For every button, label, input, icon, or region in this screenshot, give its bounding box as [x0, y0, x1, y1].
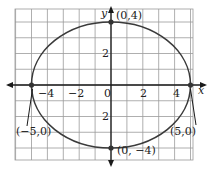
x-axis-label: x: [198, 85, 204, 96]
vertex-point: [108, 19, 113, 24]
point-label-bottom: (0, −4): [117, 145, 156, 156]
y-axis-arrow-down-icon: [108, 160, 114, 167]
y-axis-label: y: [101, 8, 107, 19]
y-axis-arrow-up-icon: [108, 6, 114, 13]
x-tick-label: −4: [38, 88, 54, 99]
x-tick-label: 4: [173, 88, 180, 99]
x-tick-label: 0: [104, 88, 111, 99]
point-label-right: (5,0): [170, 126, 196, 137]
x-axis-arrow-left-icon: [6, 82, 13, 88]
point-label-top: (0,4): [116, 10, 142, 21]
y-tick-label: 2: [102, 48, 109, 59]
y-tick-label: 2: [102, 111, 109, 122]
point-label-left: (−5,0): [16, 126, 51, 137]
vertex-point: [29, 82, 34, 87]
vertex-point: [108, 145, 113, 150]
x-tick-label: 2: [140, 88, 147, 99]
x-tick-label: −2: [68, 88, 84, 99]
vertex-point: [188, 82, 193, 87]
